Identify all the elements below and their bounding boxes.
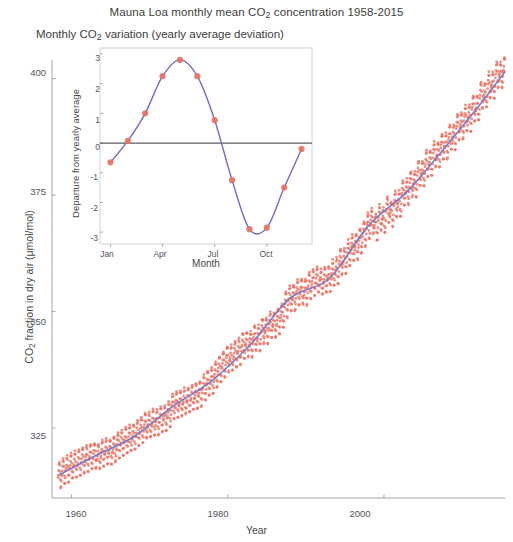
inset-y-tick-neg3: -3 <box>80 233 98 243</box>
figure-title-text: Mauna Loa monthly mean CO2 concentration… <box>110 6 404 18</box>
figure-title: Mauna Loa monthly mean CO2 concentration… <box>0 6 513 20</box>
inset-frame <box>100 48 312 244</box>
main-x-tick-1980: 1980 <box>198 508 238 519</box>
inset-y-tick-3: 3 <box>82 53 100 63</box>
inset-y-tick-neg2: -2 <box>80 203 98 213</box>
figure-root: Mauna Loa monthly mean CO2 concentration… <box>0 0 513 542</box>
inset-y-tick-0: 0 <box>82 142 100 152</box>
inset-y-tick-1: 1 <box>82 115 100 125</box>
main-y-tick-325: 325 <box>12 430 46 441</box>
main-y-tick-375: 375 <box>12 186 46 197</box>
inset-title: Monthly CO2 variation (yearly average de… <box>36 28 284 42</box>
main-y-axis-label: CO2 fraction in dry air (μmol/mol) <box>23 187 37 387</box>
inset-y-axis-label: Departure from yearly average <box>70 59 81 249</box>
inset-x-axis-label-text: Month <box>192 258 220 269</box>
inset-x-tick-apr: Apr <box>145 249 175 259</box>
inset-y-tick-neg1: -1 <box>80 172 98 182</box>
inset-x-tick-oct: Oct <box>251 249 281 259</box>
main-x-axis-label-text: Year <box>246 524 267 536</box>
inset-x-axis-label: Month <box>100 258 312 269</box>
inset-x-tick-jan: Jan <box>92 249 122 259</box>
inset-title-text: Monthly CO2 variation (yearly average de… <box>36 28 284 40</box>
main-x-tick-1960: 1960 <box>56 508 96 519</box>
main-y-axis-label-text: CO2 fraction in dry air (μmol/mol) <box>23 210 35 364</box>
inset-y-tick-2: 2 <box>82 84 100 94</box>
inset-x-tick-jul: Jul <box>198 249 228 259</box>
inset-y-axis-label-text: Departure from yearly average <box>70 89 81 218</box>
main-x-tick-2000: 2000 <box>340 508 380 519</box>
main-x-axis-label: Year <box>0 524 513 536</box>
main-y-tick-400: 400 <box>12 67 46 78</box>
main-y-tick-350: 350 <box>12 316 46 327</box>
